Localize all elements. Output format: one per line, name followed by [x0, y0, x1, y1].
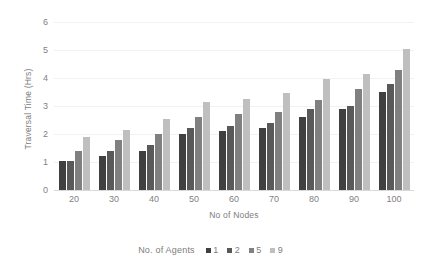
- x-axis-tick-labels: 2030405060708090100: [54, 194, 414, 204]
- legend-item[interactable]: 9: [270, 246, 283, 255]
- x-axis-tick-label: 60: [214, 194, 254, 204]
- bar[interactable]: [163, 119, 170, 190]
- bar[interactable]: [267, 123, 274, 190]
- x-axis-tick-label: 80: [294, 194, 334, 204]
- bar[interactable]: [283, 93, 290, 190]
- x-axis-tick-label: 50: [174, 194, 214, 204]
- x-axis-tick-label: 40: [134, 194, 174, 204]
- legend-item[interactable]: 2: [227, 246, 240, 255]
- y-axis-tick-label: 3: [43, 102, 48, 111]
- bar-group: [294, 22, 334, 190]
- bar-group: [54, 22, 94, 190]
- bar-group: [94, 22, 134, 190]
- bar[interactable]: [203, 102, 210, 190]
- bar-group: [214, 22, 254, 190]
- x-axis-tick-label: 20: [54, 194, 94, 204]
- x-axis-tick-label: 90: [334, 194, 374, 204]
- bar[interactable]: [179, 134, 186, 190]
- bar[interactable]: [99, 156, 106, 190]
- y-axis-tick-label: 5: [43, 46, 48, 55]
- bar[interactable]: [347, 106, 354, 190]
- bar[interactable]: [123, 130, 130, 190]
- x-axis-tick-label: 100: [374, 194, 414, 204]
- bar[interactable]: [363, 74, 370, 190]
- legend-swatch-icon: [270, 248, 275, 253]
- y-axis-title: Traversal Time (Hrs): [23, 34, 33, 184]
- bar[interactable]: [355, 89, 362, 190]
- legend-swatch-icon: [249, 248, 254, 253]
- x-axis-tick-label: 70: [254, 194, 294, 204]
- bar[interactable]: [155, 134, 162, 190]
- y-axis-tick-label: 0: [43, 186, 48, 195]
- bar[interactable]: [147, 145, 154, 190]
- legend-label: 2: [235, 246, 240, 255]
- bar[interactable]: [59, 161, 66, 190]
- legend-title: No. of Agents: [138, 245, 195, 255]
- bar[interactable]: [387, 84, 394, 190]
- bar[interactable]: [67, 161, 74, 190]
- bar[interactable]: [395, 70, 402, 190]
- legend-item[interactable]: 1: [206, 246, 219, 255]
- bar[interactable]: [139, 151, 146, 190]
- bar[interactable]: [339, 109, 346, 190]
- bar[interactable]: [219, 131, 226, 190]
- bar[interactable]: [275, 112, 282, 190]
- y-axis-tick-label: 6: [43, 18, 48, 27]
- bar[interactable]: [403, 49, 410, 190]
- bar[interactable]: [315, 100, 322, 190]
- legend-item[interactable]: 5: [249, 246, 262, 255]
- bar-group: [374, 22, 414, 190]
- legend-label: 5: [256, 246, 261, 255]
- bar[interactable]: [75, 151, 82, 190]
- bar[interactable]: [107, 151, 114, 190]
- bar[interactable]: [259, 128, 266, 190]
- bar-group: [174, 22, 214, 190]
- bar[interactable]: [235, 114, 242, 190]
- legend-swatch-icon: [227, 248, 232, 253]
- bar[interactable]: [243, 99, 250, 190]
- bar[interactable]: [299, 117, 306, 190]
- legend-swatch-icon: [206, 248, 211, 253]
- bar[interactable]: [83, 137, 90, 190]
- bar[interactable]: [307, 109, 314, 190]
- y-axis-tick-label: 4: [43, 74, 48, 83]
- x-axis-line: [54, 190, 414, 191]
- bar[interactable]: [379, 92, 386, 190]
- bar[interactable]: [323, 79, 330, 190]
- bar[interactable]: [115, 140, 122, 190]
- bar-group: [334, 22, 374, 190]
- bar[interactable]: [187, 128, 194, 190]
- bar-groups: [54, 22, 414, 190]
- chart-legend: No. of Agents 1259: [0, 245, 421, 255]
- y-axis-tick-label: 1: [43, 158, 48, 167]
- bar-group: [254, 22, 294, 190]
- x-axis-title: No of Nodes: [54, 210, 414, 220]
- bar[interactable]: [227, 126, 234, 190]
- legend-label: 9: [278, 246, 283, 255]
- y-axis-tick-label: 2: [43, 130, 48, 139]
- legend-label: 1: [213, 246, 218, 255]
- bar-chart: Traversal Time (Hrs) 0123456 20304050607…: [0, 0, 421, 280]
- x-axis-tick-label: 30: [94, 194, 134, 204]
- bar[interactable]: [195, 117, 202, 190]
- bar-group: [134, 22, 174, 190]
